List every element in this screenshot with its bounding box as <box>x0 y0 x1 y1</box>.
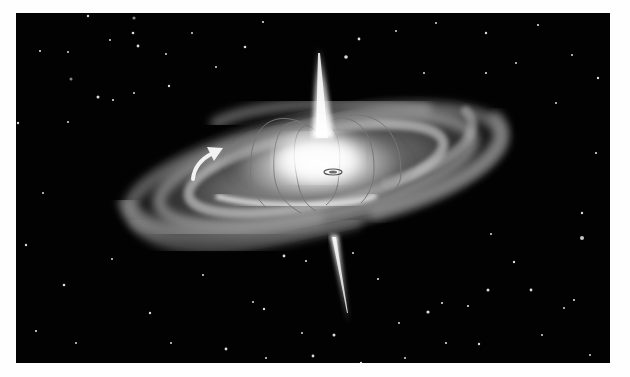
bright-core <box>278 136 358 180</box>
page <box>0 0 630 377</box>
galaxy-illustration <box>16 13 610 363</box>
caption-fragment <box>380 369 620 377</box>
lower-jet-core <box>332 237 348 313</box>
galaxy-svg <box>16 13 610 363</box>
central-black-hole <box>329 171 337 174</box>
